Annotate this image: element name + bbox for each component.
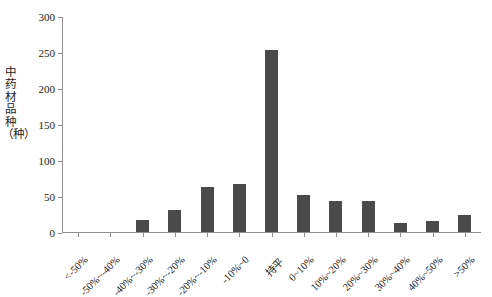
y-axis-title: 中药材品种（种） — [2, 66, 18, 140]
y-tick-mark — [58, 53, 62, 54]
x-tick-label: -10%~0 — [243, 230, 275, 262]
x-tick-label-text: <-50% — [62, 254, 90, 282]
y-tick-mark — [58, 161, 62, 162]
x-tick-label: <-50% — [82, 234, 110, 262]
x-tick-label: >50% — [469, 236, 492, 262]
bar-chart-figure: 中药材品种（种） 050100150200250300 <-50%-50%~-4… — [0, 0, 492, 297]
y-tick-mark — [58, 125, 62, 126]
y-tick-mark — [58, 89, 62, 90]
y-tick-mark — [58, 17, 62, 18]
x-tick-mark — [304, 233, 305, 237]
x-tick-mark — [336, 233, 337, 237]
y-tick-label: 50 — [44, 191, 55, 203]
y-tick-label: 100 — [39, 155, 56, 167]
bar — [265, 50, 278, 232]
x-tick-label: 0~10% — [308, 233, 337, 262]
y-tick-label: 300 — [39, 11, 56, 23]
x-tick-label: 持平 — [276, 240, 301, 265]
x-tick-mark — [78, 233, 79, 237]
bar — [297, 195, 310, 232]
x-tick-label-text: >50% — [451, 254, 477, 280]
y-axis-line — [62, 17, 63, 233]
x-tick-mark — [110, 233, 111, 237]
bar — [329, 201, 342, 232]
y-tick-mark — [58, 233, 62, 234]
x-tick-label-text: 持平 — [261, 254, 286, 279]
x-tick-label-text: -10%~0 — [219, 254, 251, 286]
y-tick-label: 200 — [39, 83, 56, 95]
y-tick-label: 0 — [50, 227, 56, 239]
y-tick-label: 150 — [39, 119, 56, 131]
y-tick-mark — [58, 197, 62, 198]
y-tick-label: 250 — [39, 47, 56, 59]
plot-area: 050100150200250300 <-50%-50%~-40%-40%~-3… — [62, 17, 481, 233]
